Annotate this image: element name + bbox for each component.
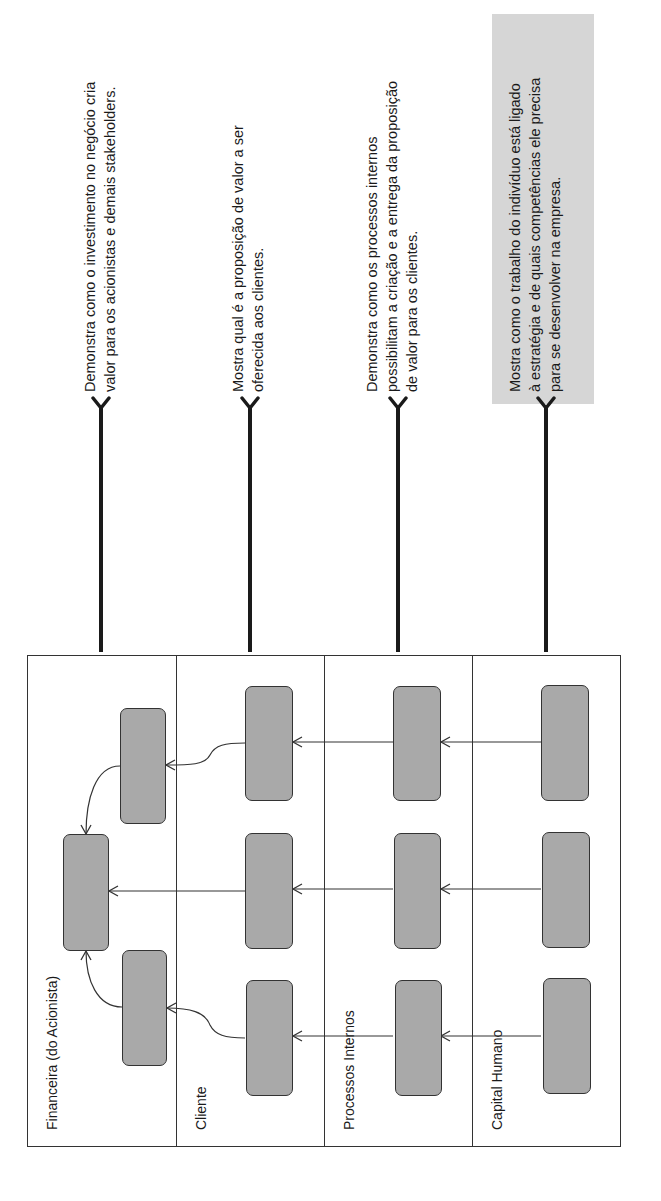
financeira-description-line-1: Demonstra como o investimento no negócio…: [80, 82, 100, 392]
processos-description-line-1: Demonstra como os processos internos: [362, 81, 382, 392]
capital-node-1: [541, 685, 589, 801]
cliente-node-2: [245, 833, 293, 949]
financeira-description: Demonstra como o investimento no negócio…: [80, 82, 120, 392]
financeira-node-upper: [120, 708, 166, 824]
cliente-node-3: [246, 980, 293, 1096]
capital-description-line-3: para se desenvolver na empresa.: [545, 78, 565, 392]
cliente-description-line-2: oferecida aos clientes.: [248, 125, 268, 392]
processos-description-line-2: possibilitam a criação e a entrega da pr…: [382, 81, 402, 392]
processos-node-2: [394, 833, 441, 949]
capital-description-line-1: Mostra como o trabalho do indivíduo está…: [505, 78, 525, 392]
processos-node-3: [395, 980, 442, 1096]
processos-description-line-3: de valor para os clientes.: [402, 81, 422, 392]
processos-node-1: [393, 686, 441, 801]
cliente-description: Mostra qual é a proposição de valor a se…: [228, 125, 268, 392]
capital-node-2: [542, 832, 590, 948]
capital-description-line-2: à estratégia e de quais competências ele…: [525, 78, 545, 392]
cliente-description-line-1: Mostra qual é a proposição de valor a se…: [228, 125, 248, 392]
cliente-node-1: [245, 686, 293, 801]
financeira-node-lower: [122, 950, 167, 1066]
capital-humano-description: Mostra como o trabalho do indivíduo está…: [505, 78, 565, 392]
financeira-description-line-2: valor para os acionistas e demais stakeh…: [100, 82, 120, 392]
capital-node-3: [543, 978, 591, 1094]
processos-description: Demonstra como os processos internos pos…: [362, 81, 422, 392]
financeira-node-center: [63, 834, 109, 951]
